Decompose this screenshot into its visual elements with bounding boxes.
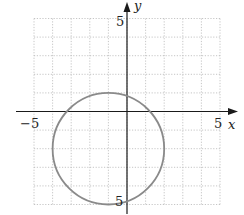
y-max-label: 5 bbox=[116, 14, 124, 29]
circle-curve bbox=[53, 93, 165, 205]
x-min-label: −5 bbox=[20, 116, 39, 131]
x-axis-arrow-icon bbox=[228, 108, 238, 115]
x-axis-label: x bbox=[228, 117, 236, 132]
coordinate-plane: −5 5 x 5 y 5 bbox=[0, 0, 244, 215]
axes bbox=[16, 2, 238, 214]
chart-svg: −5 5 x 5 y 5 bbox=[0, 0, 244, 215]
y-axis-arrow-icon bbox=[124, 2, 131, 12]
y-axis-label: y bbox=[133, 0, 142, 13]
x-max-label: 5 bbox=[214, 116, 222, 131]
y-min-label: 5 bbox=[115, 194, 123, 209]
